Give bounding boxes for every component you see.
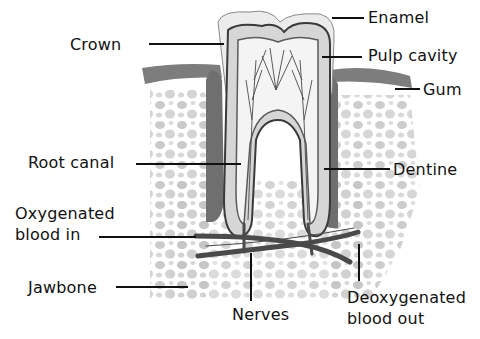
label-oxygenated-blood-in: Oxygenated blood in [15, 203, 115, 245]
label-line: blood out [347, 308, 466, 329]
label-line: blood in [15, 224, 115, 245]
label-gum: Gum [423, 80, 462, 99]
tooth-diagram: Crown Enamel Pulp cavity Gum Root canal … [0, 0, 480, 339]
label-enamel: Enamel [368, 8, 429, 27]
label-line: Oxygenated [15, 203, 115, 224]
label-pulp-cavity: Pulp cavity [368, 46, 458, 65]
label-jawbone: Jawbone [28, 278, 97, 297]
label-deoxygenated-blood-out: Deoxygenated blood out [347, 287, 466, 329]
label-nerves: Nerves [232, 305, 289, 324]
label-line: Deoxygenated [347, 287, 466, 308]
label-root-canal: Root canal [28, 153, 114, 172]
label-crown: Crown [70, 35, 121, 54]
label-dentine: Dentine [393, 160, 457, 179]
